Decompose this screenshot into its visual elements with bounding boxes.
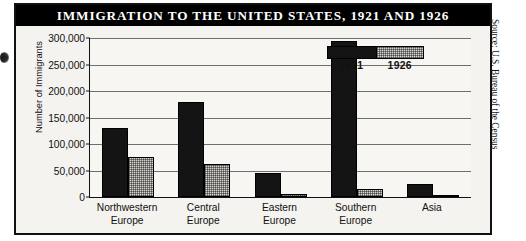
category-label-4: Asia bbox=[394, 202, 470, 215]
bar-1921-4 bbox=[407, 184, 433, 197]
bar-1921-1 bbox=[178, 102, 204, 197]
category-label-0: NorthwesternEurope bbox=[89, 202, 165, 227]
bar-1921-0 bbox=[102, 128, 128, 197]
category-label-line1: Northwestern bbox=[89, 202, 165, 215]
y-tick-label: 50,000 bbox=[54, 165, 85, 176]
category-label-line2: Europe bbox=[165, 215, 241, 228]
bar-1926-0 bbox=[128, 157, 154, 197]
category-label-line2: Europe bbox=[89, 215, 165, 228]
y-axis-title: Number of Immigrants bbox=[34, 22, 44, 152]
gridline bbox=[90, 197, 471, 198]
category-label-3: SouthernEurope bbox=[318, 202, 394, 227]
y-tick-mark bbox=[86, 38, 90, 39]
chart-body: Number of Immigrants 050,000100,000150,0… bbox=[16, 26, 490, 233]
y-tick-mark bbox=[86, 144, 90, 145]
y-tick-label: 200,000 bbox=[48, 86, 85, 97]
y-tick-label: 150,000 bbox=[48, 112, 85, 123]
chart-figure: IMMIGRATION TO THE UNITED STATES, 1921 A… bbox=[14, 3, 492, 235]
gridline bbox=[90, 91, 471, 92]
gridline bbox=[90, 118, 471, 119]
legend-swatches bbox=[327, 46, 424, 59]
legend-swatch-1921 bbox=[328, 47, 376, 58]
category-label-line2: Europe bbox=[241, 215, 317, 228]
bar-1926-4 bbox=[433, 195, 459, 197]
chart-title: IMMIGRATION TO THE UNITED STATES, 1921 A… bbox=[16, 5, 490, 26]
category-label-line1: Southern bbox=[318, 202, 394, 215]
legend-swatch-1926 bbox=[376, 47, 424, 58]
page-edge-artifact bbox=[0, 52, 9, 63]
category-label-line2: Europe bbox=[318, 215, 394, 228]
bar-1926-3 bbox=[357, 189, 383, 197]
legend-label-1921: 1921 bbox=[327, 60, 376, 71]
bar-1926-2 bbox=[281, 194, 307, 197]
y-tick-mark bbox=[86, 117, 90, 118]
source-credit: Source: U.S. Bureau of the Census bbox=[490, 19, 500, 229]
y-tick-label: 250,000 bbox=[48, 59, 85, 70]
y-tick-mark bbox=[86, 197, 90, 198]
category-label-1: CentralEurope bbox=[165, 202, 241, 227]
bar-1926-1 bbox=[204, 164, 230, 197]
y-tick-label: 0 bbox=[79, 192, 85, 203]
bar-1921-2 bbox=[255, 173, 281, 197]
category-label-line1: Eastern bbox=[241, 202, 317, 215]
category-label-2: EasternEurope bbox=[241, 202, 317, 227]
gridline bbox=[90, 144, 471, 145]
y-tick-mark bbox=[86, 64, 90, 65]
y-tick-label: 300,000 bbox=[48, 33, 85, 44]
y-tick-mark bbox=[86, 91, 90, 92]
chart-legend: 1921 1926 bbox=[327, 46, 424, 71]
legend-label-1926: 1926 bbox=[376, 60, 425, 71]
category-label-line1: Central bbox=[165, 202, 241, 215]
category-label-line1: Asia bbox=[394, 202, 470, 215]
legend-labels: 1921 1926 bbox=[327, 60, 424, 71]
gridline bbox=[90, 38, 471, 39]
y-tick-mark bbox=[86, 170, 90, 171]
y-tick-label: 100,000 bbox=[48, 139, 85, 150]
